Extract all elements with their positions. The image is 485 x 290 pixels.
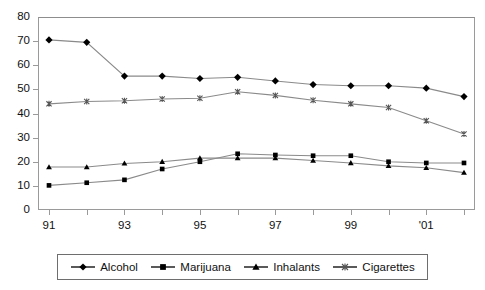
- x-tick-mark: [464, 210, 465, 215]
- legend-item-alcohol: Alcohol: [70, 261, 138, 273]
- x-tick-mark: [238, 210, 239, 215]
- y-tick-mark: [33, 162, 38, 163]
- legend-square-icon: [150, 261, 176, 273]
- legend-label: Inhalants: [273, 261, 320, 273]
- x-tick-mark: [275, 210, 276, 215]
- y-tick-label: 60: [17, 60, 30, 72]
- data-point-square-marker: [160, 264, 166, 270]
- x-tick-mark: [162, 210, 163, 215]
- x-tick-label: 99: [344, 219, 357, 231]
- x-tick-label: 95: [194, 219, 207, 231]
- y-tick-mark: [33, 186, 38, 187]
- x-tick-mark: [351, 210, 352, 215]
- y-tick-mark: [33, 65, 38, 66]
- y-tick-mark: [33, 114, 38, 115]
- y-tick-mark: [33, 41, 38, 42]
- x-tick-mark: [313, 210, 314, 215]
- x-tick-mark: [87, 210, 88, 215]
- x-tick-mark: [389, 210, 390, 215]
- x-tick-mark: [426, 210, 427, 215]
- y-tick-mark: [33, 89, 38, 90]
- legend-item-inhalants: Inhalants: [243, 261, 320, 273]
- x-tick-label: 93: [118, 219, 131, 231]
- y-tick-mark: [33, 138, 38, 139]
- y-tick-label: 40: [17, 108, 30, 120]
- legend-item-cigarettes: Cigarettes: [332, 261, 414, 273]
- y-tick-label: 0: [24, 204, 30, 216]
- chart-container: 01020304050607080 9193959799'01 AlcoholM…: [0, 0, 485, 290]
- chart-legend: AlcoholMarijuanaInhalantsCigarettes: [57, 254, 428, 280]
- y-axis: 01020304050607080: [0, 0, 38, 230]
- legend-item-marijuana: Marijuana: [150, 261, 231, 273]
- y-tick-label: 20: [17, 156, 30, 168]
- y-tick-label: 30: [17, 132, 30, 144]
- legend-label: Marijuana: [180, 261, 231, 273]
- x-tick-label: 91: [43, 219, 56, 231]
- x-tick-mark: [200, 210, 201, 215]
- y-tick-label: 50: [17, 84, 30, 96]
- legend-label: Cigarettes: [362, 261, 414, 273]
- x-tick-mark: [124, 210, 125, 215]
- legend-diamond-icon: [70, 261, 96, 273]
- x-tick-mark: [49, 210, 50, 215]
- plot-area: [38, 17, 475, 210]
- legend-label: Alcohol: [100, 261, 138, 273]
- y-tick-label: 80: [17, 11, 30, 23]
- y-tick-label: 70: [17, 35, 30, 47]
- y-tick-label: 10: [17, 180, 30, 192]
- data-point-diamond-marker: [80, 263, 87, 270]
- legend-x-icon: [332, 261, 358, 273]
- legend-triangle-icon: [243, 261, 269, 273]
- x-tick-label: '01: [419, 219, 434, 231]
- x-tick-label: 97: [269, 219, 282, 231]
